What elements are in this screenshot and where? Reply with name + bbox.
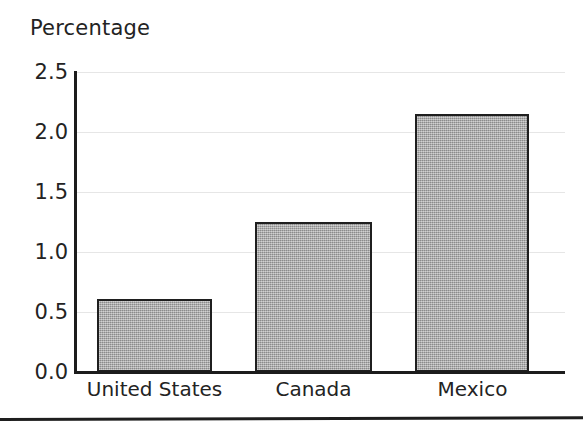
y-tick-label-1-0: 1.0 xyxy=(12,240,68,264)
y-tick-label-2-5: 2.5 xyxy=(12,60,68,84)
bar-chart-figure: Percentage 2.5 2.0 1.5 1.0 0.5 0.0 Unite… xyxy=(0,0,583,433)
x-tick-label-united-states: United States xyxy=(77,377,232,401)
x-axis-line xyxy=(74,371,565,374)
x-tick-label-canada: Canada xyxy=(236,377,391,401)
bar-mexico xyxy=(415,114,529,372)
bottom-rule xyxy=(0,416,583,421)
gridline-2-5 xyxy=(77,72,565,73)
y-tick-label-0-0: 0.0 xyxy=(12,360,68,384)
bar-canada xyxy=(255,222,372,372)
chart-title: Percentage xyxy=(30,16,150,40)
y-tick-label-1-5: 1.5 xyxy=(12,180,68,204)
y-axis-line xyxy=(74,71,77,374)
x-tick-label-mexico: Mexico xyxy=(395,377,550,401)
bar-united-states xyxy=(97,299,212,372)
y-tick-label-0-5: 0.5 xyxy=(12,300,68,324)
y-tick-label-2-0: 2.0 xyxy=(12,120,68,144)
